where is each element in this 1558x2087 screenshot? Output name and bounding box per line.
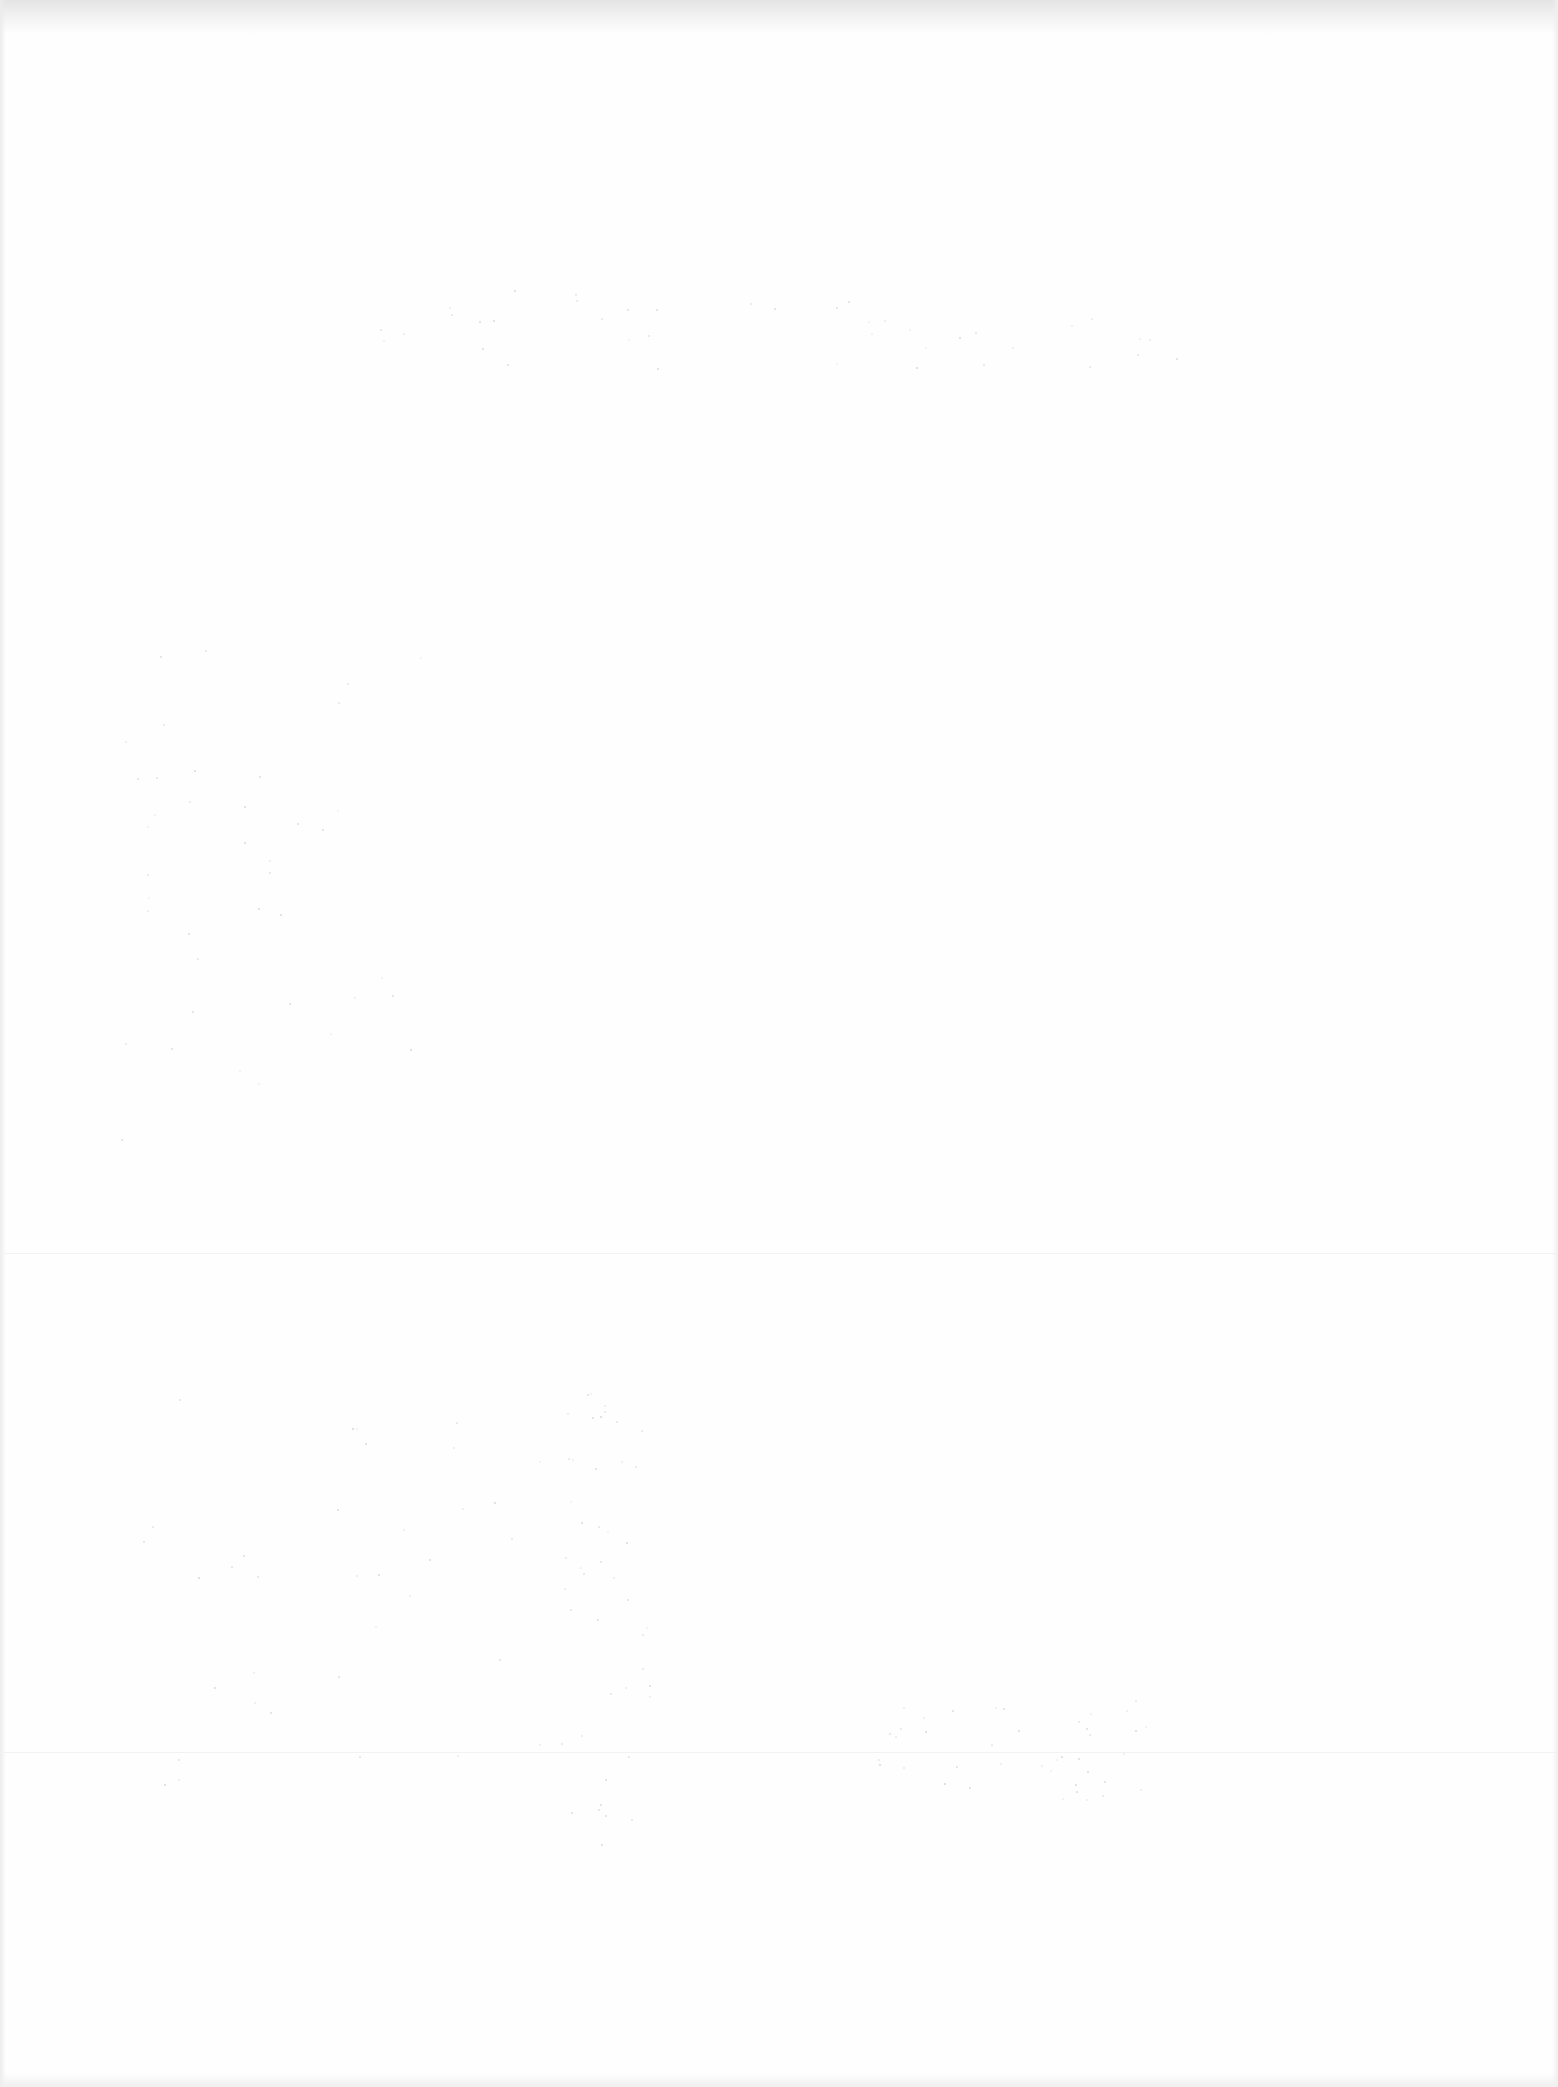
- scan-speck: [1086, 1728, 1088, 1730]
- scan-speck: [628, 1756, 630, 1758]
- scan-top-edge-shadow: [0, 0, 1558, 34]
- scan-speck: [456, 1422, 458, 1424]
- scan-speck: [879, 1764, 881, 1766]
- scan-speck: [338, 1676, 340, 1678]
- scan-speck: [604, 1411, 606, 1413]
- scan-speck: [409, 1595, 411, 1597]
- scan-speck: [269, 860, 271, 862]
- scan-speck: [1139, 338, 1141, 340]
- scan-speck: [631, 1819, 633, 1821]
- scan-speck: [889, 1733, 891, 1735]
- scan-bottom-edge-shadow: [0, 2073, 1558, 2087]
- scan-speck: [449, 307, 451, 309]
- scan-speck: [1104, 1781, 1106, 1783]
- scan-speck: [197, 958, 199, 960]
- scan-speck: [1126, 1710, 1128, 1712]
- scan-speck: [1012, 347, 1014, 349]
- scan-speck: [354, 997, 356, 999]
- scan-speck: [598, 1809, 600, 1811]
- scan-speck: [625, 1687, 627, 1689]
- scan-speck: [258, 1083, 260, 1085]
- scan-speck: [499, 1659, 501, 1661]
- scan-speck: [254, 1702, 256, 1704]
- scan-speck: [621, 1461, 623, 1463]
- scan-speck: [750, 303, 752, 305]
- scan-speck: [269, 872, 271, 874]
- scan-speck: [244, 806, 246, 808]
- scan-speck: [1076, 1791, 1078, 1793]
- scan-speck: [383, 340, 385, 342]
- scan-speck: [156, 777, 158, 779]
- scan-speck: [322, 829, 324, 831]
- scan-speck: [152, 1526, 154, 1528]
- scan-speck: [868, 321, 870, 323]
- scan-left-edge-shadow: [0, 0, 6, 2087]
- scan-speck: [590, 1393, 592, 1395]
- scan-speck: [1061, 1756, 1063, 1758]
- scan-speck: [991, 1744, 993, 1746]
- scan-speck: [925, 347, 927, 349]
- scan-speck: [420, 657, 422, 659]
- page-content: [120, 120, 1438, 1967]
- scan-speck: [1075, 1784, 1077, 1786]
- scan-speck: [923, 1717, 925, 1719]
- scan-speck: [1062, 1798, 1064, 1800]
- blank-page: [0, 0, 1558, 2087]
- scan-speck: [163, 724, 165, 726]
- scan-speck: [565, 1557, 567, 1559]
- scan-speck: [975, 332, 977, 334]
- scan-speck: [561, 1743, 563, 1745]
- scan-speck: [900, 1728, 902, 1730]
- scan-speck: [642, 1634, 644, 1636]
- scan-speck: [365, 1443, 367, 1445]
- scan-speck: [571, 1812, 573, 1814]
- scan-speck: [494, 1502, 496, 1504]
- scan-speck: [154, 814, 156, 816]
- scan-speck: [1003, 1708, 1005, 1710]
- scan-speck: [539, 1744, 541, 1746]
- scan-speck: [995, 1707, 997, 1709]
- scan-speck: [352, 1428, 354, 1430]
- scan-speck: [1078, 1721, 1080, 1723]
- scan-speck: [1078, 1758, 1080, 1760]
- scan-speck: [297, 823, 299, 825]
- scan-speck: [511, 1538, 513, 1540]
- scan-speck: [539, 1461, 541, 1463]
- scan-speck: [642, 1668, 644, 1670]
- scan-speck: [581, 1522, 583, 1524]
- scan-speck: [983, 364, 985, 366]
- scan-speck: [231, 1566, 233, 1568]
- scan-speck: [147, 910, 149, 912]
- scan-speck: [649, 1685, 651, 1687]
- scan-speck: [836, 307, 838, 309]
- scan-speck: [895, 1736, 897, 1738]
- scan-speck: [188, 933, 190, 935]
- scan-speck: [178, 1759, 180, 1761]
- scan-speck: [656, 309, 658, 311]
- scan-speck: [189, 801, 191, 803]
- scan-speck: [635, 1466, 637, 1468]
- scan-speck: [403, 1529, 405, 1531]
- scan-speck: [171, 1048, 173, 1050]
- scan-speck: [1091, 318, 1093, 320]
- scan-speck: [605, 1815, 607, 1817]
- scan-speck: [583, 1573, 585, 1575]
- scan-speck: [600, 1804, 602, 1806]
- scan-speck: [627, 1599, 629, 1601]
- scan-speck: [600, 1416, 602, 1418]
- scan-right-edge-shadow: [1552, 0, 1558, 2087]
- scan-speck: [1176, 358, 1178, 360]
- scan-speck: [198, 1577, 200, 1579]
- scan-speck: [381, 977, 383, 979]
- scan-speck: [600, 1561, 602, 1563]
- scan-speck: [270, 1712, 272, 1714]
- scan-speck: [280, 914, 282, 916]
